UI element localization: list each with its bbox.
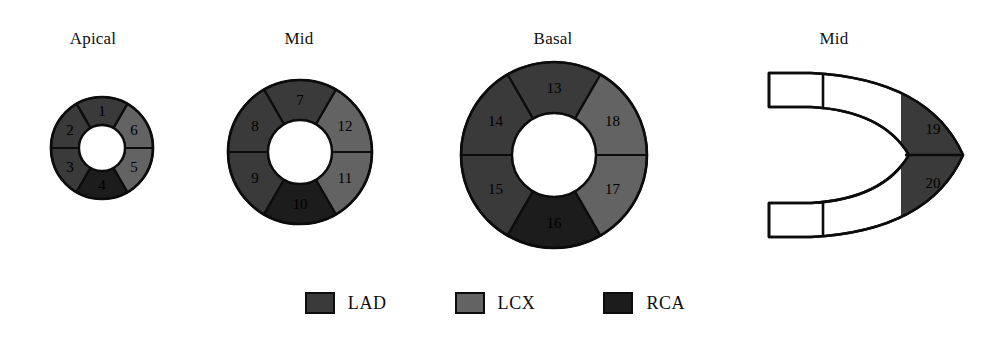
segment-label-19: 19 — [926, 121, 941, 137]
segment-label-9: 9 — [251, 170, 259, 186]
segment-label-15: 15 — [488, 181, 503, 197]
legend-item-rca: RCA — [603, 292, 685, 314]
segment-label-14: 14 — [488, 113, 504, 129]
ventricular-cavity — [79, 125, 125, 171]
segment-20 — [901, 155, 973, 239]
panel-title-basal: Basal — [534, 30, 573, 47]
segment-19 — [901, 71, 973, 155]
legend-label-rca: RCA — [646, 294, 685, 312]
long-axis-apex-view: 1920 — [751, 55, 981, 255]
legend-swatch-rca — [603, 292, 633, 314]
ventricular-cavity — [512, 113, 596, 197]
legend-label-lad: LAD — [348, 294, 387, 312]
segment-label-2: 2 — [66, 122, 74, 138]
legend-item-lad: LAD — [305, 292, 387, 314]
segment-label-16: 16 — [547, 215, 563, 231]
polar-map-mid: 789101112 — [222, 74, 378, 230]
segment-label-17: 17 — [605, 181, 621, 197]
panel-title-mid: Mid — [285, 30, 314, 47]
ventricular-cavity — [268, 120, 332, 184]
segment-label-4: 4 — [98, 177, 106, 193]
legend-item-lcx: LCX — [455, 292, 536, 314]
segment-label-7: 7 — [296, 92, 304, 108]
panel-title-apex-mid: Mid — [820, 30, 849, 47]
segment-label-18: 18 — [605, 113, 620, 129]
legend-swatch-lcx — [455, 292, 485, 314]
panel-title-apical: Apical — [70, 30, 117, 47]
segment-label-8: 8 — [251, 118, 259, 134]
segment-label-12: 12 — [338, 118, 353, 134]
segment-label-11: 11 — [338, 170, 352, 186]
segment-label-10: 10 — [293, 196, 308, 212]
polar-map-apical: 123456 — [45, 91, 159, 205]
segment-label-20: 20 — [926, 175, 941, 191]
figure-canvas: Apical Mid Basal Mid 123456 789101112 13… — [0, 0, 990, 345]
segment-label-6: 6 — [130, 122, 138, 138]
legend-swatch-lad — [305, 292, 335, 314]
segment-label-13: 13 — [547, 80, 562, 96]
legend: LAD LCX RCA — [0, 283, 990, 323]
segment-label-3: 3 — [66, 159, 74, 175]
polar-map-basal: 131415161718 — [455, 56, 653, 254]
segment-label-5: 5 — [130, 159, 138, 175]
segment-label-1: 1 — [98, 103, 106, 119]
legend-label-lcx: LCX — [498, 294, 536, 312]
